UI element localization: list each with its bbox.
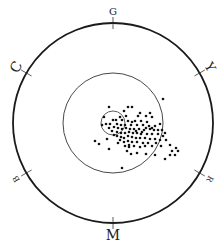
data-point — [131, 141, 134, 144]
data-point — [117, 142, 120, 145]
data-point — [154, 125, 157, 128]
data-point — [174, 154, 177, 157]
data-point — [105, 123, 108, 126]
data-point — [103, 116, 106, 119]
data-point — [169, 154, 172, 157]
data-point — [147, 142, 150, 145]
data-point — [121, 128, 124, 131]
data-point — [112, 119, 115, 122]
data-point — [153, 129, 156, 132]
data-point — [116, 123, 119, 126]
data-point — [143, 129, 146, 132]
data-point — [135, 137, 138, 140]
data-point — [106, 138, 109, 141]
data-point — [127, 135, 130, 138]
data-point — [108, 148, 111, 151]
data-point — [137, 115, 140, 118]
data-point — [164, 158, 167, 161]
data-point — [115, 119, 118, 122]
data-point — [123, 141, 126, 144]
data-point — [127, 140, 130, 143]
data-point — [128, 131, 131, 134]
data-point — [116, 131, 119, 134]
data-point — [141, 131, 144, 134]
data-point — [145, 127, 148, 130]
data-point — [124, 132, 127, 135]
data-point — [154, 138, 157, 141]
data-point — [175, 147, 178, 150]
data-point — [127, 106, 130, 109]
hue-label-m: M — [106, 227, 120, 243]
data-point — [149, 112, 152, 115]
data-point — [144, 145, 147, 148]
data-point — [101, 124, 104, 127]
data-point — [177, 150, 180, 153]
data-point — [145, 153, 148, 156]
data-point — [151, 145, 154, 148]
data-point — [139, 146, 142, 149]
data-point — [142, 142, 145, 145]
data-point — [132, 132, 135, 135]
data-point — [146, 121, 149, 124]
middle-circle — [63, 73, 163, 173]
data-point — [142, 124, 145, 127]
data-point — [123, 110, 126, 113]
data-point — [151, 127, 154, 130]
data-point — [131, 136, 134, 139]
data-point — [160, 145, 163, 148]
tick-b — [21, 170, 31, 176]
data-point — [94, 140, 97, 143]
data-point — [148, 125, 151, 128]
hue-ticks — [21, 17, 205, 229]
hue-label-r: R — [204, 174, 215, 185]
data-point — [120, 124, 123, 127]
data-point — [127, 120, 130, 123]
data-point — [145, 115, 148, 118]
data-point — [159, 139, 162, 142]
data-point — [98, 143, 101, 146]
data-point — [138, 128, 141, 131]
data-point — [157, 133, 160, 136]
data-point — [136, 152, 139, 155]
data-point — [108, 106, 111, 109]
data-point — [136, 141, 139, 144]
data-point — [116, 135, 119, 138]
data-point — [151, 133, 154, 136]
outer-circle — [13, 23, 213, 223]
data-point — [171, 150, 174, 153]
data-point — [113, 134, 116, 137]
data-point — [124, 145, 127, 148]
data-point — [125, 115, 128, 118]
data-point — [129, 128, 132, 131]
data-point — [126, 150, 129, 153]
data-point — [131, 106, 134, 109]
data-point — [109, 123, 112, 126]
data-point — [120, 132, 123, 135]
data-point — [157, 129, 160, 132]
hue-labels: GYRMBC — [6, 6, 218, 243]
hue-label-g: G — [109, 6, 117, 17]
hue-label-y: Y — [201, 59, 219, 75]
data-point — [144, 137, 147, 140]
data-point — [151, 116, 154, 119]
data-point — [121, 119, 124, 122]
tick-r — [194, 170, 204, 176]
data-point — [169, 144, 172, 147]
data-point — [128, 144, 131, 147]
hue-circle-diagram: GYRMBC — [0, 0, 221, 252]
data-point — [162, 98, 165, 101]
data-point — [164, 132, 167, 135]
data-point — [149, 138, 152, 141]
data-point — [124, 124, 127, 127]
data-point — [155, 142, 158, 145]
data-point — [119, 139, 122, 142]
data-point — [117, 127, 120, 130]
data-point — [139, 112, 142, 115]
data-point — [108, 127, 111, 130]
data-point — [162, 135, 165, 138]
data-point — [119, 116, 122, 119]
data-point — [125, 127, 128, 130]
data-point — [131, 121, 134, 124]
data-point — [140, 120, 143, 123]
data-point — [165, 139, 168, 142]
